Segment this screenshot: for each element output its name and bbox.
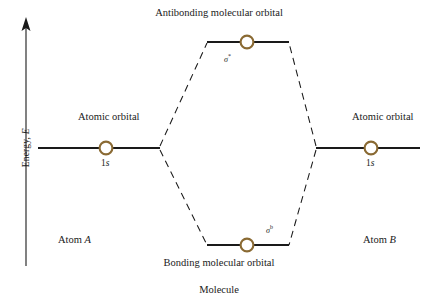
antibonding-orbital-title: Antibonding molecular orbital: [0, 8, 438, 19]
atomic-orbital-left-sublabel-symbol: s: [106, 158, 110, 168]
atom-b-label-text: Atom: [363, 234, 390, 245]
connector-left-bonding: [160, 150, 207, 245]
atomic-orbital-left-title: Atomic orbital: [78, 112, 140, 123]
orbital-marker-antibonding: [241, 36, 254, 49]
sigma-bonding-superscript: b: [270, 224, 273, 230]
sigma-antibonding-superscript: *: [228, 53, 231, 59]
connector-left-antibonding: [160, 43, 207, 146]
atom-b-label-symbol: B: [390, 234, 396, 245]
mo-diagram-figure: Energy, E Antibonding molecular orbital …: [0, 0, 438, 301]
atom-a-label-symbol: A: [85, 234, 91, 245]
diagram-canvas: [0, 0, 438, 301]
orbital-marker-atomic-left: [100, 142, 113, 155]
sigma-bonding-label: σb: [266, 224, 273, 235]
sigma-antibonding-label: σ*: [224, 53, 231, 64]
atomic-orbital-right-title: Atomic orbital: [352, 112, 414, 123]
atomic-orbital-right-sublabel-symbol: s: [371, 158, 375, 168]
energy-axis-label-text: Energy,: [21, 134, 31, 167]
connector-right-bonding: [289, 150, 316, 245]
bonding-orbital-title: Bonding molecular orbital: [0, 258, 438, 269]
atomic-orbital-right-sublabel: 1s: [366, 159, 374, 169]
orbital-marker-atomic-right: [365, 142, 378, 155]
energy-axis-label: Energy, E: [22, 108, 32, 188]
atomic-orbital-left-sublabel: 1s: [101, 159, 109, 169]
atom-b-label: Atom B: [363, 235, 396, 246]
molecule-label: Molecule: [0, 285, 438, 296]
orbital-marker-bonding: [241, 239, 254, 252]
energy-axis-symbol: E: [21, 128, 31, 134]
atom-a-label-text: Atom: [58, 234, 85, 245]
connector-right-antibonding: [289, 43, 316, 146]
atom-a-label: Atom A: [58, 235, 91, 246]
